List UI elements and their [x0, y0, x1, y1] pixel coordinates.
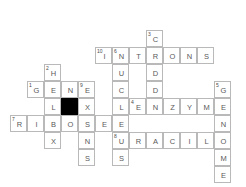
crossword-cell[interactable]: R	[146, 47, 163, 64]
cell-letter: L	[113, 99, 128, 114]
crossword-cell[interactable]: C	[112, 81, 129, 98]
cell-letter: I	[28, 116, 43, 131]
cell-letter: O	[62, 116, 77, 131]
cell-letter: L	[45, 99, 60, 114]
crossword-cell[interactable]: D	[146, 81, 163, 98]
crossword-cell[interactable]: N	[180, 47, 197, 64]
cell-letter: C	[164, 133, 179, 148]
crossword-cell[interactable]: 10I	[95, 47, 112, 64]
cell-letter: U	[113, 65, 128, 80]
cell-letter: E	[113, 116, 128, 131]
crossword-cell[interactable]: E	[44, 81, 61, 98]
cell-letter: O	[215, 133, 230, 148]
cell-letter: E	[215, 99, 230, 114]
crossword-cell[interactable]: N	[78, 132, 95, 149]
cell-letter: S	[79, 150, 94, 165]
crossword-cell[interactable]: X	[44, 132, 61, 149]
crossword-cell[interactable]: U	[112, 64, 129, 81]
crossword-cell[interactable]: I	[27, 115, 44, 132]
crossword-cell[interactable]: M	[214, 149, 231, 166]
cell-letter: N	[113, 48, 128, 63]
crossword-cell[interactable]: 9E	[78, 81, 95, 98]
cell-letter: D	[147, 82, 162, 97]
cell-letter: N	[62, 82, 77, 97]
cell-letter: E	[96, 116, 111, 131]
cell-letter: E	[45, 82, 60, 97]
cell-letter: R	[130, 133, 145, 148]
crossword-cell[interactable]: 1G	[27, 81, 44, 98]
crossword-cell[interactable]: 8U	[112, 132, 129, 149]
cell-letter: N	[79, 133, 94, 148]
cell-letter: L	[198, 133, 213, 148]
crossword-cell[interactable]: L	[112, 98, 129, 115]
crossword-cell[interactable]: E	[95, 115, 112, 132]
crossword-cell[interactable]: 7R	[10, 115, 27, 132]
cell-letter: Y	[181, 99, 196, 114]
crossword-cell[interactable]: Z	[163, 98, 180, 115]
crossword-cell[interactable]: E	[112, 115, 129, 132]
crossword-cell[interactable]: N	[61, 81, 78, 98]
cell-letter: G	[28, 82, 43, 97]
cell-letter: R	[11, 116, 26, 131]
cell-letter: N	[215, 116, 230, 131]
cell-letter: S	[113, 150, 128, 165]
cell-letter: O	[164, 48, 179, 63]
cell-letter: I	[181, 133, 196, 148]
cell-letter: G	[215, 82, 230, 97]
crossword-cell[interactable]: S	[78, 115, 95, 132]
crossword-cell[interactable]: T	[129, 47, 146, 64]
cell-letter: R	[147, 48, 162, 63]
crossword-cell[interactable]: 6N	[112, 47, 129, 64]
cell-letter: Z	[164, 99, 179, 114]
crossword-cell[interactable]: Y	[180, 98, 197, 115]
crossword-cell[interactable]: N	[146, 98, 163, 115]
cell-letter: T	[130, 48, 145, 63]
cell-letter: E	[130, 99, 145, 114]
cell-letter: E	[215, 167, 230, 182]
crossword-cell[interactable]: B	[44, 115, 61, 132]
crossword-cell[interactable]: E	[214, 166, 231, 183]
crossword-cell[interactable]: L	[44, 98, 61, 115]
cell-letter: M	[215, 150, 230, 165]
crossword-cell[interactable]: D	[146, 64, 163, 81]
crossword-cell[interactable]: O	[163, 47, 180, 64]
crossword-cell[interactable]: S	[197, 47, 214, 64]
cell-letter: U	[113, 133, 128, 148]
cell-letter: M	[198, 99, 213, 114]
cell-letter: X	[45, 133, 60, 148]
cell-letter: B	[45, 116, 60, 131]
cell-letter: E	[79, 82, 94, 97]
crossword-cell[interactable]: 4E	[129, 98, 146, 115]
cell-letter: C	[113, 82, 128, 97]
crossword-cell[interactable]: S	[78, 149, 95, 166]
crossword-cell[interactable]: C	[163, 132, 180, 149]
cell-letter: S	[198, 48, 213, 63]
crossword-cell[interactable]: L	[197, 132, 214, 149]
cell-letter: A	[147, 133, 162, 148]
cell-letter: D	[147, 65, 162, 80]
crossword-cell[interactable]: I	[180, 132, 197, 149]
cell-letter: N	[147, 99, 162, 114]
crossword-grid: 3C10I6NTRONS2HUD1GEN9ECD5GLXL4ENZYME7RIB…	[0, 0, 246, 187]
crossword-cell[interactable]: M	[197, 98, 214, 115]
crossword-cell[interactable]: N	[214, 115, 231, 132]
cell-letter: H	[45, 65, 60, 80]
crossword-cell[interactable]: O	[214, 132, 231, 149]
crossword-cell[interactable]: R	[129, 132, 146, 149]
crossword-cell[interactable]: 5G	[214, 81, 231, 98]
cell-letter: N	[181, 48, 196, 63]
cell-letter: C	[147, 31, 162, 46]
crossword-block-cell	[61, 98, 78, 115]
crossword-cell[interactable]: E	[214, 98, 231, 115]
crossword-cell[interactable]: 2H	[44, 64, 61, 81]
cell-letter: X	[79, 99, 94, 114]
crossword-cell[interactable]: S	[112, 149, 129, 166]
crossword-cell[interactable]: X	[78, 98, 95, 115]
crossword-cell[interactable]: O	[61, 115, 78, 132]
crossword-cell[interactable]: A	[146, 132, 163, 149]
cell-letter: S	[79, 116, 94, 131]
cell-letter: I	[96, 48, 111, 63]
crossword-cell[interactable]: 3C	[146, 30, 163, 47]
